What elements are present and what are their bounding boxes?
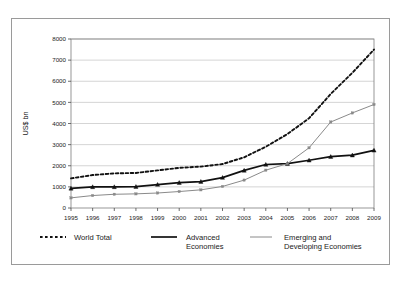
x-tick-label: 1996 [86,214,100,221]
series-line [71,150,374,188]
y-tick-label: 3000 [52,141,66,148]
x-tick-label: 2004 [259,214,273,221]
legend-label: Emerging and [284,233,331,242]
figure-container: 010002000300040005000600070008000 199519… [11,18,390,265]
y-tick-label: 0 [63,204,67,211]
data-series-group [69,50,376,199]
data-point-marker [308,147,310,149]
legend-label-line2: Economies [186,242,224,251]
legend-label: World Total [74,233,112,242]
y-tick-label: 1000 [52,183,66,190]
x-tick-label: 2007 [324,214,338,221]
data-point-marker [156,192,158,194]
data-point-marker [330,121,332,123]
y-tick-marks [68,39,71,208]
data-point-marker [265,169,267,171]
data-point-marker [351,112,353,114]
data-point-marker [91,194,93,196]
y-tick-label: 8000 [52,35,66,42]
line-chart: 010002000300040005000600070008000 199519… [12,19,389,264]
legend-item-advanced: AdvancedEconomies [151,233,224,251]
y-tick-label: 5000 [52,99,66,106]
chart-legend: World TotalAdvancedEconomiesEmerging and… [40,233,362,251]
data-point-marker [221,185,223,187]
legend-item-world-total: World Total [40,233,112,242]
x-tick-label: 2001 [194,214,208,221]
x-tick-label: 2009 [367,214,381,221]
x-tick-marks [71,208,374,211]
x-tick-label: 2000 [172,214,186,221]
y-axis-title: US$ bn [21,112,30,136]
data-point-marker [70,197,72,199]
x-tick-label: 2002 [216,214,230,221]
x-tick-label: 2005 [281,214,295,221]
data-point-marker [113,193,115,195]
series-emerging-and-developing-economies [70,103,375,199]
data-point-marker [135,193,137,195]
series-line [71,104,374,197]
x-tick-label: 2008 [345,214,359,221]
legend-label: Advanced [186,233,220,242]
series-world-total [71,50,374,179]
y-axis-tick-labels: 010002000300040005000600070008000 [52,35,66,211]
x-tick-label: 1999 [151,214,165,221]
series-line [71,50,374,179]
y-tick-label: 6000 [52,77,66,84]
legend-label-line2: Developing Economies [284,242,362,251]
x-tick-label: 2006 [302,214,316,221]
y-tick-label: 2000 [52,162,66,169]
series-advanced-economies [69,148,376,190]
data-point-marker [200,189,202,191]
x-tick-label: 1995 [64,214,78,221]
x-axis-tick-labels: 1995199619971998199920002001200220032004… [64,214,381,221]
data-point-marker [373,103,375,105]
x-tick-label: 1998 [129,214,143,221]
x-tick-label: 1997 [107,214,121,221]
x-tick-label: 2003 [237,214,251,221]
data-point-marker [178,190,180,192]
legend-item-emerging-and: Emerging andDeveloping Economies [250,233,362,251]
y-tick-label: 7000 [52,56,66,63]
data-point-marker [286,162,288,164]
data-point-marker [243,179,245,181]
y-tick-label: 4000 [52,120,66,127]
